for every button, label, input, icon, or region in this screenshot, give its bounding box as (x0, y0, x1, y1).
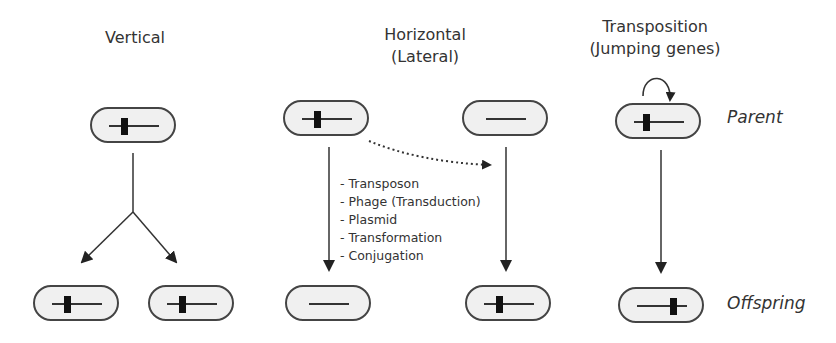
horizontal-recipient-cell (462, 100, 548, 136)
vertical-fork-arrow (82, 153, 176, 262)
mechanism-item: - Conjugation (340, 247, 481, 265)
transposon-marker (64, 296, 71, 313)
chromosome-line (167, 303, 217, 305)
vertical-offspring-cell-right (148, 285, 234, 321)
mechanism-item: - Plasmid (340, 211, 481, 229)
chromosome-line (634, 121, 684, 123)
horizontal-recipient-offspring-cell (465, 285, 551, 321)
transposon-marker (179, 296, 186, 313)
chromosome-line (309, 303, 349, 305)
mechanism-item: - Transformation (340, 229, 481, 247)
transposon-marker (314, 111, 321, 128)
chromosome-line (486, 118, 526, 120)
chromosome-line (484, 303, 534, 305)
mechanism-item: - Transposon (340, 175, 481, 193)
chromosome-line (109, 125, 159, 127)
transposon-marker (670, 298, 677, 315)
chromosome-line (637, 305, 687, 307)
horizontal-donor-cell (283, 100, 369, 136)
transposon-marker (121, 118, 128, 135)
transposition-parent-cell (615, 103, 701, 139)
arrows-layer (0, 0, 836, 343)
vertical-offspring-cell-left (33, 285, 119, 321)
horizontal-transfer-dotted-arrow (369, 141, 490, 165)
parent-label: Parent (727, 107, 783, 127)
transposition-offspring-cell (618, 287, 704, 323)
mechanism-item: - Phage (Transduction) (340, 193, 481, 211)
transfer-mechanism-list: - Transposon - Phage (Transduction) - Pl… (340, 175, 481, 265)
transposon-marker (496, 296, 503, 313)
chromosome-line (302, 118, 352, 120)
transposon-marker (643, 114, 650, 131)
transposition-loop-arrow (643, 78, 670, 100)
horizontal-donor-offspring-cell (285, 285, 371, 321)
chromosome-line (52, 303, 102, 305)
vertical-parent-cell (90, 107, 176, 143)
offspring-label: Offspring (727, 293, 806, 313)
